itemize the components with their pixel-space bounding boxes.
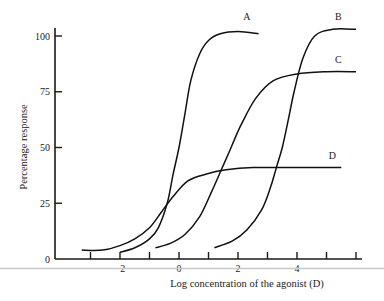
curve-label-b: B (335, 11, 342, 22)
y-ticks: 0255075100 (35, 31, 62, 265)
y-tick-label: 50 (40, 142, 50, 153)
y-axis-label: Percentage response (18, 104, 29, 190)
curve-label-d: D (329, 150, 336, 161)
curve-label-a: A (243, 11, 251, 22)
curve-c (155, 72, 356, 248)
curves-group (82, 29, 356, 252)
y-tick-label: 100 (35, 31, 50, 42)
axes-group (55, 28, 362, 259)
curve-a (120, 32, 259, 253)
x-axis-label: Log concentration of the agonist (D) (170, 278, 324, 290)
curve-d (82, 167, 342, 250)
y-tick-label: 0 (45, 254, 50, 265)
x-ticks: −2024 (91, 252, 357, 274)
curve-label-c: C (335, 54, 342, 65)
y-tick-label: 75 (40, 86, 50, 97)
y-tick-label: 25 (40, 198, 50, 209)
dose-response-chart: 0255075100 −2024 ABCD Percentage respons… (0, 0, 384, 301)
